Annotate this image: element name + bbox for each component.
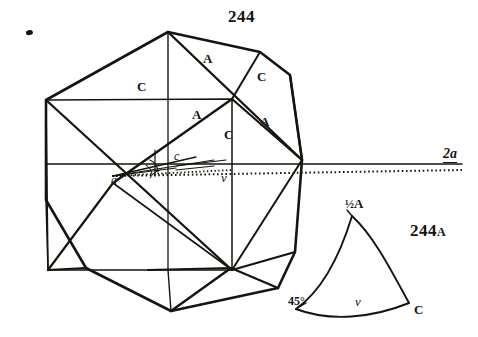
angle-arc-2	[146, 165, 152, 174]
subfigure-vertex-label-c: C	[414, 303, 423, 316]
figure-drawing	[0, 0, 478, 337]
face-label-a-right: A	[260, 115, 269, 128]
diagonal-lower-right-short	[113, 183, 232, 270]
axis-label-2a: 2a	[443, 147, 457, 163]
vertex-label-a: a	[111, 174, 117, 186]
bottom-vertical-edge	[168, 270, 171, 311]
subfigure-arc-bottom-nu	[296, 303, 409, 317]
dotted-axis-line	[112, 170, 462, 176]
right-upper-facet	[290, 75, 302, 160]
diagonal-a-center-left	[113, 99, 232, 183]
diagonal-a-upper-right	[168, 32, 302, 160]
subfigure-side-label-nu: ν	[355, 295, 361, 308]
figure-number: 244	[228, 8, 255, 25]
subfigure-apex-fraction: ½	[345, 197, 354, 211]
face-label-a-left: A	[192, 108, 201, 121]
lower-right-facet	[171, 268, 278, 311]
face-label-c-top-left: C	[137, 80, 146, 93]
ray-c-right-lower	[176, 166, 214, 170]
angle-label-c: c	[174, 150, 179, 162]
subfigure-angle-45: 45°	[288, 295, 305, 307]
subfigure-apex-label: ½A	[345, 197, 363, 210]
upper-right-facet	[232, 52, 260, 99]
subfigure-number: 244A	[410, 222, 446, 239]
diagonal-c-upper-right	[232, 99, 302, 160]
face-label-c-center: C	[224, 128, 233, 141]
angle-label-nu-main: ν	[221, 171, 227, 184]
face-label-a-top: A	[203, 52, 212, 65]
subfigure-number-text: 244	[410, 221, 437, 240]
subfigure-number-suffix: A	[437, 225, 446, 239]
subfigure-arc-right	[352, 216, 409, 303]
figure-page: 244 2a C C C A A A a c ν 244A ½A 45° ν C	[0, 0, 478, 337]
face-label-c-top-right: C	[257, 70, 266, 83]
diagonal-main-descending	[46, 100, 232, 270]
ray-c-right	[176, 160, 226, 166]
subfigure-apex-letter: A	[354, 196, 363, 211]
